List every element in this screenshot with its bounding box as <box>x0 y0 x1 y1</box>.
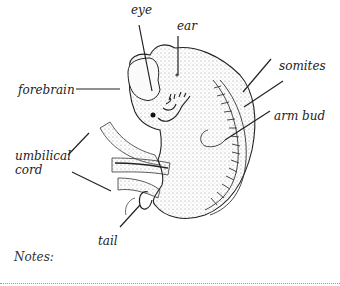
notes-dotted-line <box>0 283 340 284</box>
label-umbilical: umbilical <box>15 150 71 163</box>
label-cord: cord <box>15 164 42 177</box>
label-arm-bud: arm bud <box>274 110 325 123</box>
label-tail: tail <box>98 235 118 248</box>
label-ear: ear <box>177 20 197 33</box>
embryo-illustration <box>0 0 340 286</box>
label-eye: eye <box>131 4 152 17</box>
eye-dot <box>151 113 156 118</box>
notes-label: Notes: <box>14 250 54 264</box>
label-somites: somites <box>279 60 326 73</box>
label-forebrain: forebrain <box>18 84 75 97</box>
